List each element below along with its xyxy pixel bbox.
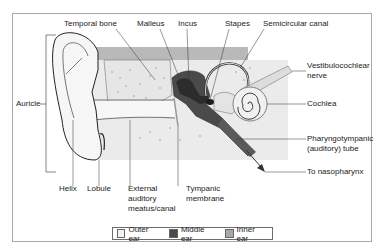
- legend-swatch-inner-ear: [225, 229, 233, 238]
- label-malleus: Malleus: [137, 19, 165, 29]
- label-cochlea: Cochlea: [307, 99, 336, 109]
- label-to-nasopharynx: To nasopharynx: [307, 167, 363, 177]
- label-pharyngotympanic-1: Pharyngotympanic: [307, 134, 373, 144]
- label-helix: Helix: [59, 184, 77, 194]
- temporal-bone: [104, 60, 172, 108]
- label-external-canal-2: auditory: [128, 194, 156, 204]
- legend-item-inner-ear: Inner ear: [225, 225, 266, 243]
- legend-label-inner-ear: Inner ear: [237, 225, 266, 243]
- label-stapes: Stapes: [225, 19, 250, 29]
- legend-label-middle-ear: Middle ear: [181, 225, 215, 243]
- label-vestibulocochlear-nerve-1: Vestibulocochlear: [307, 61, 370, 71]
- label-auricle: Auricle: [16, 99, 40, 109]
- legend: Outer ear Middle ear Inner ear: [112, 227, 273, 240]
- nasopharynx-arrowhead: [257, 164, 265, 172]
- legend-swatch-middle-ear: [169, 229, 177, 238]
- label-external-canal-3: meatus/canal: [128, 204, 176, 214]
- legend-item-outer-ear: Outer ear: [117, 225, 159, 243]
- label-incus: Incus: [178, 19, 197, 29]
- label-lobule: Lobule: [87, 184, 111, 194]
- cochlea: [233, 87, 267, 121]
- legend-swatch-outer-ear: [117, 229, 125, 238]
- label-tympanic-membrane-2: membrane: [186, 194, 224, 204]
- ear-anatomy-illustration: [0, 0, 386, 252]
- label-pharyngotympanic-2: (auditory) tube: [307, 144, 359, 154]
- legend-label-outer-ear: Outer ear: [128, 225, 159, 243]
- label-vestibulocochlear-nerve-2: nerve: [307, 71, 327, 81]
- legend-item-middle-ear: Middle ear: [169, 225, 215, 243]
- label-external-canal-1: External: [128, 184, 157, 194]
- label-semicircular-canal: Semicircular canal: [263, 19, 328, 29]
- label-tympanic-membrane-1: Tympanic: [186, 184, 220, 194]
- label-temporal-bone: Temporal bone: [64, 19, 117, 29]
